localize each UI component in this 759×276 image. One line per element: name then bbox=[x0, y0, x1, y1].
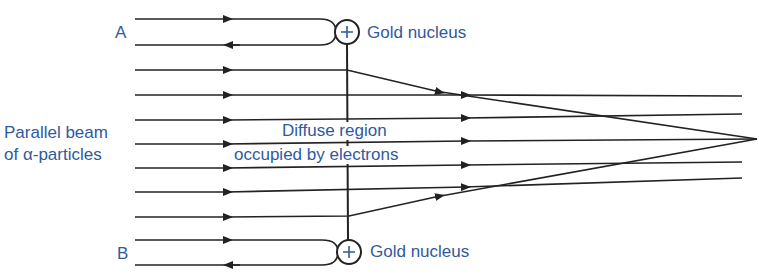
trajectory-deflect-bottom bbox=[135, 139, 757, 217]
label-beam-line1: Parallel beam bbox=[4, 124, 108, 142]
trajectories-straight bbox=[135, 95, 757, 192]
label-a: A bbox=[115, 24, 126, 42]
label-region-line2: occupied by electrons bbox=[233, 146, 399, 164]
trajectory-a bbox=[135, 19, 336, 45]
label-region-line1: Diffuse region bbox=[281, 122, 388, 140]
label-gold-nucleus-bottom: Gold nucleus bbox=[370, 243, 469, 261]
gold-foil-line bbox=[347, 44, 348, 240]
trajectory-b bbox=[135, 240, 338, 265]
label-b: B bbox=[117, 245, 128, 263]
label-gold-nucleus-top: Gold nucleus bbox=[367, 24, 466, 42]
rutherford-scattering-diagram: A Gold nucleus Parallel beam of α-partic… bbox=[0, 0, 759, 276]
trajectory-deflect-top bbox=[135, 70, 757, 139]
label-beam-line2: of α-particles bbox=[4, 146, 102, 164]
